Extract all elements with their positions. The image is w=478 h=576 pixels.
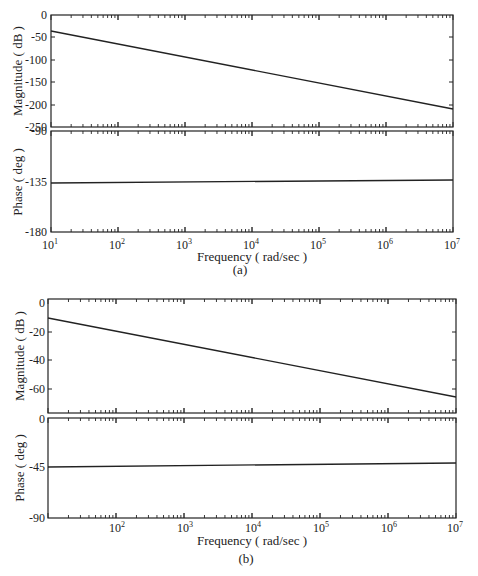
magnitude-panel-b: 0 -20 -40 -60 Magnitude ( dB ) xyxy=(12,296,456,413)
y-tick: -20 xyxy=(29,325,45,339)
y-tick: 0 xyxy=(39,296,45,310)
x-tick: 107 xyxy=(444,237,460,252)
magnitude-ylabel-a: Magnitude ( dB ) xyxy=(10,26,25,116)
phase-panel-b: 0 -45 -90 Phase ( deg ) xyxy=(12,412,456,525)
phase-ylabel-a: Phase ( deg ) xyxy=(10,148,25,216)
magnitude-line-b xyxy=(48,318,456,397)
y-tick: -60 xyxy=(29,382,45,396)
x-tick: 105 xyxy=(310,237,326,252)
y-tick: -100 xyxy=(25,53,47,67)
x-tick: 102 xyxy=(109,237,125,252)
magnitude-ylabel-b: Magnitude ( dB ) xyxy=(12,311,27,401)
x-tick: 103 xyxy=(176,237,192,252)
phase-ylabel-b: Phase ( deg ) xyxy=(12,434,27,502)
y-tick: -90 xyxy=(29,511,45,525)
y-tick: -90 xyxy=(31,124,47,138)
y-tick: -50 xyxy=(31,30,47,44)
y-tick: -40 xyxy=(29,353,45,367)
magnitude-axes-b xyxy=(48,299,456,413)
x-ticks-a-mag xyxy=(51,15,453,127)
y-tick: -180 xyxy=(25,225,47,239)
y-tick: -135 xyxy=(25,175,47,189)
phase-line-b xyxy=(48,463,456,467)
x-ticks-b-mag xyxy=(48,299,456,413)
x-tick: 103 xyxy=(177,520,193,535)
magnitude-line-a xyxy=(51,31,453,109)
xlabel-a: Frequency ( rad/sec ) xyxy=(197,249,307,264)
x-tick: 101 xyxy=(42,237,58,252)
y-tick: -200 xyxy=(25,98,47,112)
x-ticks-b-ph xyxy=(48,418,456,518)
x-tick: 106 xyxy=(377,237,393,252)
y-tick: 0 xyxy=(39,412,45,426)
x-tick: 106 xyxy=(381,520,397,535)
magnitude-panel-a: 0 -50 -100 -150 -200 -250 Magnitude ( dB… xyxy=(10,8,453,134)
magnitude-axes-a xyxy=(51,15,453,127)
bode-figure: 0 -50 -100 -150 -200 -250 Magnitude ( dB… xyxy=(0,0,478,576)
phase-axes-b xyxy=(48,418,456,518)
x-tick: 102 xyxy=(109,520,125,535)
y-tick: -45 xyxy=(29,460,45,474)
figure-a: 0 -50 -100 -150 -200 -250 Magnitude ( dB… xyxy=(10,8,460,277)
caption-b: (b) xyxy=(238,551,253,566)
caption-a: (a) xyxy=(233,262,247,277)
y-tick: 0 xyxy=(41,8,47,22)
xlabel-b: Frequency ( rad/sec ) xyxy=(197,533,307,548)
phase-line-a xyxy=(51,180,453,183)
x-tick: 107 xyxy=(447,520,463,535)
phase-panel-a: -90 -135 -180 Phase ( deg ) xyxy=(10,124,453,239)
figure-b: 0 -20 -40 -60 Magnitude ( dB ) 0 -45 -90… xyxy=(12,296,463,566)
x-tick: 105 xyxy=(313,520,329,535)
y-tick: -150 xyxy=(25,75,47,89)
